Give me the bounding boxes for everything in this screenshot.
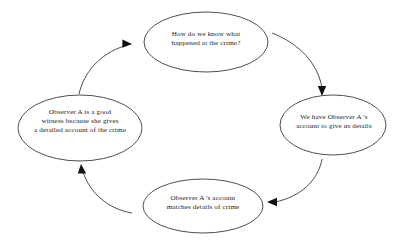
arrow-matches-to-witness <box>78 164 132 213</box>
node-ellipse-question <box>144 12 268 72</box>
node-ellipse-account <box>280 95 386 155</box>
node-ellipse-witness <box>18 95 142 161</box>
arrow-question-to-account <box>272 33 326 96</box>
arrow-witness-to-question <box>79 39 132 94</box>
diagram-canvas <box>0 0 402 247</box>
node-ellipse-matches <box>143 179 263 233</box>
arrow-account-to-matches <box>267 159 322 206</box>
cycle-diagram: How do we know what happened at the crim… <box>0 0 402 247</box>
